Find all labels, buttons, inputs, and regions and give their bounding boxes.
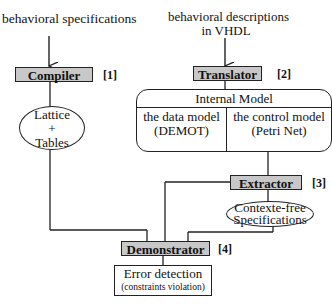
data-model-line2: (DEMOT)	[137, 124, 226, 138]
output-line1: Error detection	[115, 266, 211, 281]
internal-model-title: Internal Model	[137, 91, 331, 107]
internal-model-divider	[137, 107, 331, 108]
lattice-line3: Tables	[20, 136, 84, 150]
connector-lines	[0, 0, 332, 305]
lattice-line2: +	[20, 122, 84, 136]
translator-ref: [2]	[277, 67, 291, 82]
error-detection-output: Error detection (constraints violation)	[114, 265, 212, 296]
translator-process-box: Translator	[193, 66, 262, 81]
output-line2: (constraints violation)	[115, 281, 211, 293]
input-right-line2: in VHDL	[168, 24, 284, 38]
control-model-line2: (Petri Net)	[227, 124, 331, 138]
control-model-line1: the control model	[227, 110, 331, 124]
extractor-process-box: Extractor	[230, 175, 302, 190]
lattice-tables-store: Lattice + Tables	[19, 106, 85, 150]
input-right-line1: behavioral descriptions	[168, 10, 284, 24]
demonstrator-process-box: Demonstrator	[121, 241, 210, 256]
control-model-cell: the control model (Petri Net)	[227, 110, 331, 138]
compiler-ref: [1]	[103, 68, 117, 83]
demonstrator-ref: [4]	[218, 242, 232, 257]
context-free-specifications-store: Contexte-free Specifications	[226, 201, 314, 227]
data-model-line1: the data model	[137, 110, 226, 124]
context-free-line2: Specifications	[227, 214, 313, 226]
input-behavioral-specifications: behavioral specifications	[2, 12, 137, 26]
internal-model-box: Internal Model the data model (DEMOT) th…	[136, 89, 332, 152]
data-model-cell: the data model (DEMOT)	[137, 110, 226, 138]
extractor-ref: [3]	[312, 176, 326, 191]
compiler-process-box: Compiler	[15, 67, 93, 82]
lattice-line1: Lattice	[20, 108, 84, 122]
input-behavioral-descriptions: behavioral descriptions in VHDL	[168, 10, 284, 38]
